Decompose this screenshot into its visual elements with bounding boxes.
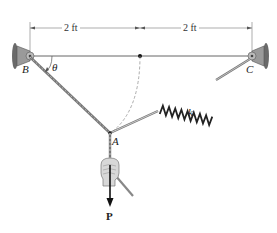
force-label-p: P — [106, 211, 113, 222]
dimension-label-left: 2 ft — [62, 23, 80, 33]
point-label-a: A — [112, 136, 119, 147]
diagram-canvas — [0, 0, 277, 233]
point-label-c: C — [246, 64, 253, 75]
angle-label-theta: θ — [52, 62, 57, 73]
dimension-label-right: 2 ft — [181, 23, 199, 33]
spring-label-k: k — [188, 107, 193, 118]
point-label-b: B — [22, 64, 29, 75]
spring — [159, 101, 213, 130]
